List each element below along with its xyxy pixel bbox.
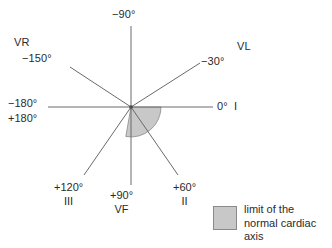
axis-label-zero: 0°	[217, 100, 228, 112]
axis-label-pos60-group: +60° II	[173, 180, 196, 208]
legend-text: limit of the normal cardiac axis	[244, 203, 316, 244]
origin-point	[129, 105, 133, 109]
axis-line-neg30-vl	[131, 63, 200, 107]
axis-label-180-pair: −180° +180°	[8, 96, 37, 125]
axis-label-neg90: −90°	[112, 8, 135, 21]
axis-label-pos90: +90°	[110, 188, 133, 202]
axis-lead-label-iii: III	[54, 194, 83, 208]
legend-line-2: normal cardiac	[244, 217, 316, 231]
axis-label-pos90-group: +90° VF	[110, 188, 133, 216]
axis-label-neg30: −30°	[201, 55, 224, 68]
cardiac-axis-diagram: −90° VR −150° VL −30° −180° +180° 0° I +…	[0, 0, 332, 248]
axis-lead-label-vr: VR	[14, 36, 29, 49]
legend-swatch-normal-axis	[213, 206, 237, 230]
axis-label-zero-lead-i: 0° I	[217, 100, 237, 113]
axis-lead-label-i: I	[234, 100, 237, 112]
axis-label-neg180: −180°	[8, 96, 37, 110]
axis-label-neg150: −150°	[22, 52, 52, 65]
axis-label-pos60: +60°	[173, 180, 196, 194]
axis-line-neg150-vr	[70, 67, 131, 107]
axis-lead-label-vf: VF	[110, 202, 133, 216]
legend-line-1: limit of the	[244, 203, 316, 217]
axis-label-pos180: +180°	[8, 111, 37, 125]
axis-label-pos120-group: +120° III	[54, 180, 83, 208]
axis-label-pos120: +120°	[54, 180, 83, 194]
axis-line-pos120-iii	[84, 107, 131, 175]
legend: limit of the normal cardiac axis	[213, 203, 316, 244]
legend-line-3: axis	[244, 230, 316, 244]
axis-lead-label-ii: II	[173, 194, 196, 208]
axis-lead-label-vl: VL	[237, 40, 251, 53]
